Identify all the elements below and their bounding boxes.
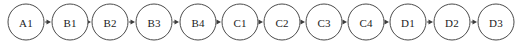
node-label: D3 bbox=[489, 17, 503, 29]
arrowhead-icon bbox=[259, 19, 264, 24]
diagram-node[interactable]: A1 bbox=[8, 4, 44, 40]
node-label: C1 bbox=[233, 17, 246, 29]
diagram-node[interactable]: C2 bbox=[264, 4, 300, 40]
chain-diagram: A1B1B2B3B4C1C2C3C4D1D2D3 bbox=[0, 0, 520, 44]
node-label: D1 bbox=[401, 17, 415, 29]
arrowhead-icon bbox=[217, 19, 222, 24]
arrowhead-icon bbox=[131, 19, 136, 24]
edge-arrow bbox=[217, 19, 222, 24]
arrowhead-icon bbox=[301, 19, 306, 24]
arrowhead-icon bbox=[175, 19, 180, 24]
node-label: A1 bbox=[19, 17, 33, 29]
diagram-node[interactable]: B2 bbox=[92, 4, 128, 40]
arrowhead-icon bbox=[47, 19, 52, 24]
edge-arrow bbox=[45, 19, 51, 24]
edge-arrow bbox=[427, 19, 433, 24]
edge-arrow bbox=[259, 19, 264, 24]
edge-arrow bbox=[173, 19, 179, 24]
node-label: C4 bbox=[359, 17, 373, 29]
edge-arrow bbox=[343, 19, 348, 24]
node-label: B2 bbox=[103, 17, 116, 29]
diagram-node[interactable]: B4 bbox=[180, 4, 216, 40]
diagram-node[interactable]: C3 bbox=[306, 4, 342, 40]
edge-arrow bbox=[301, 19, 306, 24]
diagram-node[interactable]: D2 bbox=[434, 4, 470, 40]
diagram-node[interactable]: D1 bbox=[390, 4, 426, 40]
arrowhead-icon bbox=[473, 19, 478, 24]
arrowhead-icon bbox=[343, 19, 348, 24]
node-label: D2 bbox=[445, 17, 459, 29]
edge-arrow bbox=[129, 19, 135, 24]
node-label: C2 bbox=[275, 17, 288, 29]
arrowhead-icon bbox=[385, 19, 390, 24]
diagram-node[interactable]: C4 bbox=[348, 4, 384, 40]
node-label: B4 bbox=[191, 17, 205, 29]
edge-arrow bbox=[471, 19, 477, 24]
node-label: B1 bbox=[63, 17, 76, 29]
node-label: B3 bbox=[147, 17, 161, 29]
arrowhead-icon bbox=[429, 19, 434, 24]
node-label: C3 bbox=[317, 17, 331, 29]
diagram-node[interactable]: B1 bbox=[52, 4, 88, 40]
diagram-node[interactable]: B3 bbox=[136, 4, 172, 40]
edge-arrow bbox=[385, 19, 390, 24]
diagram-node[interactable]: D3 bbox=[478, 4, 514, 40]
chain-diagram-canvas: A1B1B2B3B4C1C2C3C4D1D2D3 bbox=[0, 0, 520, 44]
diagram-node[interactable]: C1 bbox=[222, 4, 258, 40]
